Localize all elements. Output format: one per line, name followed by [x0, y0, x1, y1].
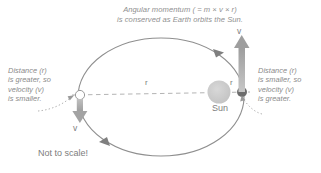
- radius-label-left: r: [145, 79, 148, 87]
- radius-label-right: r: [230, 79, 233, 87]
- velocity-arrow-perihelion: [234, 35, 250, 92]
- velocity-arrow-aphelion: [72, 99, 87, 123]
- sun-label: Sun: [203, 103, 237, 113]
- velocity-label-perihelion: v: [237, 27, 241, 35]
- diagram-title: Angular momentum ( = m × v × r) is conse…: [95, 5, 265, 25]
- perihelion-annotation: Distance (r) is smaller, so velocity (v)…: [258, 66, 318, 103]
- orbit-diagram: Angular momentum ( = m × v × r) is conse…: [0, 0, 321, 173]
- orbit-direction-arrow-bottom: [99, 137, 110, 146]
- not-to-scale-note: Not to scale!: [38, 148, 88, 158]
- aphelion-annotation: Distance (r) is greater, so velocity (v)…: [8, 66, 70, 103]
- velocity-label-aphelion: v: [73, 124, 77, 132]
- orbit-direction-arrow-top: [213, 49, 224, 58]
- sun-body: [208, 81, 231, 104]
- earth-aphelion-marker: [75, 90, 84, 99]
